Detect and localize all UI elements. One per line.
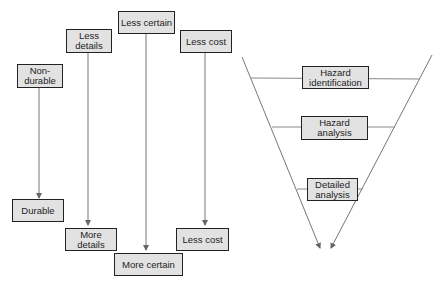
box-hazard-analysis: Hazard analysis [301,116,368,140]
box-hazard-identification: Hazard identification [302,66,369,89]
box-detailed-analysis: Detailed analysis [307,178,358,201]
box-less-certain: Less certain [118,11,175,34]
box-more-details: More details [65,228,117,251]
figure-caption-cropped [150,279,300,285]
box-less-cost-top: Less cost [180,30,232,53]
box-durable: Durable [12,199,64,222]
box-less-cost-bottom: Less cost [176,228,229,251]
box-non-durable: Non- durable [17,64,63,88]
box-more-certain: More certain [114,253,183,276]
box-less-details: Less details [66,29,112,53]
